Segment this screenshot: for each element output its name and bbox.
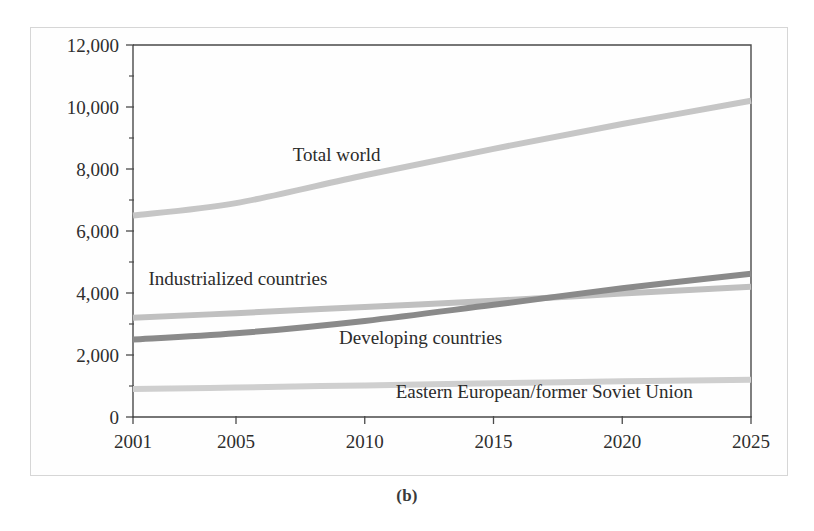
y-axis-tick-label: 12,000: [67, 35, 119, 56]
figure-container: 02,0004,0006,0008,00010,00012,000 200120…: [0, 0, 814, 531]
x-axis-tick-label: 2001: [114, 431, 152, 452]
plot-axes: [133, 45, 751, 417]
series-line: [133, 101, 751, 216]
series-inline-labels: Total worldIndustrialized countriesDevel…: [148, 144, 693, 402]
y-axis-tick-label: 4,000: [76, 283, 119, 304]
series-label: Eastern European/former Soviet Union: [396, 381, 694, 402]
x-axis-tick-label: 2015: [475, 431, 513, 452]
series-label: Total world: [293, 144, 381, 165]
x-axis-tick-labels: 200120052010201520202025: [114, 431, 770, 452]
y-axis-tick-label: 2,000: [76, 345, 119, 366]
y-axis-tick-label: 8,000: [76, 159, 119, 180]
y-axis-tick-labels: 02,0004,0006,0008,00010,00012,000: [67, 35, 119, 428]
y-axis-tick-label: 6,000: [76, 221, 119, 242]
line-chart: 02,0004,0006,0008,00010,00012,000 200120…: [0, 0, 814, 531]
figure-caption: (b): [0, 486, 814, 506]
y-axis-tick-label: 10,000: [67, 97, 119, 118]
x-axis-tick-label: 2005: [217, 431, 255, 452]
y-axis-tick-label: 0: [110, 407, 120, 428]
series-label: Industrialized countries: [148, 268, 327, 289]
x-axis-tick-label: 2010: [346, 431, 384, 452]
x-axis-tick-label: 2025: [732, 431, 770, 452]
x-axis-tick-label: 2020: [603, 431, 641, 452]
series-label: Developing countries: [339, 327, 502, 348]
